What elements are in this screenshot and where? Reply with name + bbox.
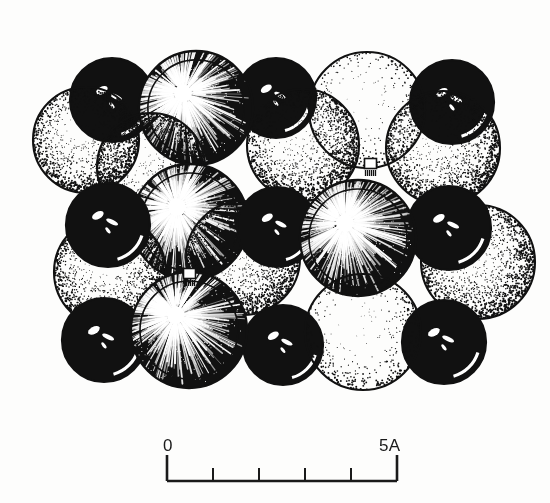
figure-root: 0 5A bbox=[0, 0, 550, 503]
crystal-structure-model bbox=[0, 0, 550, 430]
scale-bar-right-label: 5A bbox=[379, 436, 400, 456]
scale-bar bbox=[0, 424, 550, 503]
scale-bar-left-label: 0 bbox=[163, 436, 173, 456]
